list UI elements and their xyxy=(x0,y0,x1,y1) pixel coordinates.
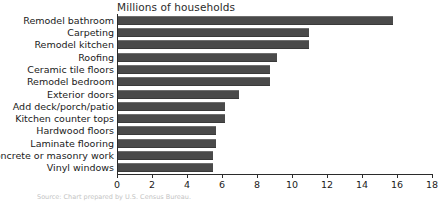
x-tick-label: 14 xyxy=(347,179,377,190)
x-tick-mark xyxy=(187,174,188,178)
bar-row: Vinyl windows xyxy=(118,163,213,172)
x-tick-mark xyxy=(292,174,293,178)
bar xyxy=(118,139,216,148)
category-label: Hardwood floors xyxy=(0,126,118,135)
bar xyxy=(118,90,239,99)
bar-row: Kitchen counter tops xyxy=(118,114,225,123)
category-label: Concrete or masonry work xyxy=(0,151,118,160)
bar xyxy=(118,77,270,86)
bar xyxy=(118,40,309,49)
x-tick-mark xyxy=(222,174,223,178)
bar-row: Exterior doors xyxy=(118,90,239,99)
category-label: Exterior doors xyxy=(0,90,118,99)
x-axis-line xyxy=(117,174,432,175)
bar-chart-figure: Millions of households Remodel bathroomC… xyxy=(0,0,441,203)
bar xyxy=(118,28,309,37)
x-tick-mark xyxy=(257,174,258,178)
bar-row: Add deck/porch/patio xyxy=(118,102,225,111)
bar-row: Roofing xyxy=(118,53,277,62)
x-tick-label: 6 xyxy=(207,179,237,190)
bar xyxy=(118,114,225,123)
x-tick-label: 8 xyxy=(242,179,272,190)
bar xyxy=(118,163,213,172)
bar xyxy=(118,53,277,62)
bar-row: Remodel bathroom xyxy=(118,16,393,25)
bar-row: Hardwood floors xyxy=(118,126,216,135)
bar xyxy=(118,65,270,74)
category-label: Ceramic tile floors xyxy=(0,65,118,74)
bar xyxy=(118,126,216,135)
x-tick-label: 0 xyxy=(102,179,132,190)
category-label: Carpeting xyxy=(0,28,118,37)
bar-row: Remodel kitchen xyxy=(118,40,309,49)
x-tick-label: 16 xyxy=(382,179,412,190)
x-tick-label: 2 xyxy=(137,179,167,190)
x-tick-label: 10 xyxy=(277,179,307,190)
bar-row: Remodel bedroom xyxy=(118,77,270,86)
x-tick-mark xyxy=(362,174,363,178)
x-tick-mark xyxy=(152,174,153,178)
x-tick-label: 12 xyxy=(312,179,342,190)
plot-area: Remodel bathroomCarpetingRemodel kitchen… xyxy=(117,14,432,174)
category-label: Add deck/porch/patio xyxy=(0,102,118,111)
x-tick-label: 18 xyxy=(417,179,441,190)
category-label: Roofing xyxy=(0,53,118,62)
bar xyxy=(118,16,393,25)
x-tick-mark xyxy=(397,174,398,178)
bar-row: Ceramic tile floors xyxy=(118,65,270,74)
category-label: Vinyl windows xyxy=(0,163,118,172)
bar xyxy=(118,151,213,160)
x-tick-label: 4 xyxy=(172,179,202,190)
category-label: Remodel bedroom xyxy=(0,77,118,86)
category-label: Remodel bathroom xyxy=(0,16,118,25)
x-tick-mark xyxy=(432,174,433,178)
bar-row: Carpeting xyxy=(118,28,309,37)
x-tick-mark xyxy=(327,174,328,178)
category-label: Remodel kitchen xyxy=(0,40,118,49)
bar-row: Laminate flooring xyxy=(118,139,216,148)
x-tick-mark xyxy=(117,174,118,178)
category-label: Laminate flooring xyxy=(0,139,118,148)
bar-row: Concrete or masonry work xyxy=(118,151,213,160)
category-label: Kitchen counter tops xyxy=(0,114,118,123)
chart-title: Millions of households xyxy=(117,1,235,13)
source-note: Source: Chart prepared by U.S. Census Bu… xyxy=(37,193,191,201)
bar xyxy=(118,102,225,111)
